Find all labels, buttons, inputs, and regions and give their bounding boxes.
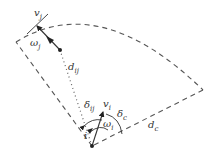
- agent-j-point: [58, 48, 62, 52]
- label-dij: dij: [68, 62, 79, 75]
- label-dc: dc: [148, 120, 158, 133]
- sector-left-edge: [16, 42, 92, 146]
- label-vj: vj: [34, 8, 42, 21]
- label-vi: vi: [103, 99, 111, 112]
- agent-i-point: [90, 144, 94, 148]
- label-omega-j: ωj: [30, 38, 40, 51]
- label-omega-i: ωi: [103, 119, 113, 132]
- sensing-sector-diagram: vj ωj dij δij vi δc ωi i dc: [0, 0, 216, 155]
- label-delta-ij: δij: [84, 100, 94, 113]
- label-i: i: [84, 131, 87, 141]
- label-delta-c: δc: [117, 109, 127, 122]
